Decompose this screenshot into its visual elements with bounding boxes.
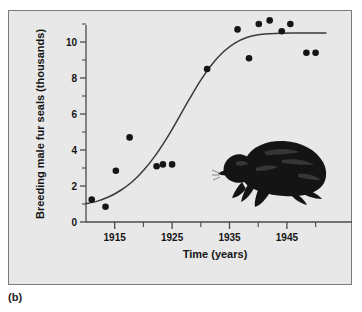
x-tick-label: 1935 (218, 232, 241, 243)
figure-panel: 0246810 1915192519351945 Time (years) Br… (0, 0, 362, 312)
data-point (246, 55, 253, 62)
y-tick-label: 6 (71, 109, 77, 120)
data-point (126, 134, 133, 141)
y-tick-label: 0 (71, 217, 77, 228)
data-point (88, 196, 95, 203)
data-point (312, 50, 319, 57)
data-point (204, 66, 211, 73)
chart-plot-area: 0246810 1915192519351945 Time (years) Br… (0, 0, 362, 312)
data-point (278, 28, 285, 35)
data-point (169, 161, 176, 168)
y-tick-label: 2 (71, 181, 77, 192)
data-point-group (88, 17, 318, 210)
panel-label: (b) (8, 291, 22, 303)
data-point (160, 161, 167, 168)
x-axis-ticks (115, 222, 316, 229)
x-axis-tick-labels: 1915192519351945 (104, 232, 299, 243)
y-tick-label: 8 (71, 73, 77, 84)
x-axis-title: Time (years) (183, 248, 248, 260)
data-point (287, 21, 294, 28)
y-tick-label: 4 (71, 145, 77, 156)
data-point (255, 21, 262, 28)
logistic-curve (86, 33, 326, 204)
data-point (234, 26, 241, 33)
data-point (102, 203, 109, 210)
y-tick-label: 10 (66, 37, 78, 48)
y-axis-tick-labels: 0246810 (66, 37, 78, 228)
data-point (113, 167, 120, 174)
x-tick-label: 1945 (276, 232, 299, 243)
y-axis-title: Breeding male fur seals (thousands) (34, 29, 46, 219)
y-axis-ticks (80, 24, 86, 222)
x-tick-label: 1915 (104, 232, 127, 243)
data-point (303, 50, 310, 57)
x-tick-label: 1925 (161, 232, 184, 243)
data-point (266, 17, 273, 24)
data-point (153, 163, 160, 170)
